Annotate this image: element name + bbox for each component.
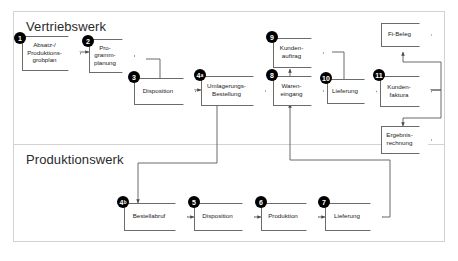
badge-6: 6 xyxy=(255,196,267,208)
badge-number: 8 xyxy=(270,72,274,79)
node-umlagerungs-bestellung[interactable]: Umlagerungs- Bestellung xyxy=(201,76,264,104)
node-label: Disposition xyxy=(197,203,238,229)
badge-number: 10 xyxy=(322,75,330,82)
node-label: Kunden- faktura xyxy=(383,76,415,105)
node-label: Pro- gramm- planung xyxy=(92,39,118,71)
diagram-canvas: Vertriebswerk Produktionswerk xyxy=(0,0,458,261)
badge-number: 11 xyxy=(375,72,382,79)
badge-4b: 4b xyxy=(117,196,129,208)
node-lieferung-vertrieb[interactable]: Lieferung xyxy=(327,79,375,102)
lane-title-vertriebswerk: Vertriebswerk xyxy=(26,19,106,34)
badge-number: 1 xyxy=(18,35,22,42)
badge-10: 10 xyxy=(320,72,332,84)
node-kundenfaktura[interactable]: Kunden- faktura xyxy=(380,76,430,105)
badge-subscript: a xyxy=(201,74,204,79)
node-label: Umlagerungs- Bestellung xyxy=(204,76,249,104)
node-fi-beleg[interactable]: Fi-Beleg xyxy=(381,23,430,45)
node-label: Bestellabruf xyxy=(127,203,171,229)
node-programmplanung[interactable]: Pro- gramm- planung xyxy=(89,39,133,71)
badge-number: 3 xyxy=(132,74,136,81)
badge-5: 5 xyxy=(188,196,200,208)
node-label: Lieferung xyxy=(330,79,360,102)
badge-1: 1 xyxy=(14,32,26,44)
badge-7: 7 xyxy=(318,196,330,208)
badge-4a: 4a xyxy=(194,69,206,81)
badge-number: 9 xyxy=(270,34,274,41)
badge-number: 6 xyxy=(259,199,263,206)
badge-number: 2 xyxy=(86,38,90,45)
node-disposition-produktion[interactable]: Disposition xyxy=(194,203,253,229)
badge-number: 7 xyxy=(322,199,326,206)
node-label: Waren- eingang xyxy=(276,76,307,104)
node-wareneingang[interactable]: Waren- eingang xyxy=(273,76,322,104)
node-label: Produktion xyxy=(264,203,302,229)
badge-11: 11 xyxy=(373,69,385,81)
badge-8: 8 xyxy=(266,69,278,81)
badge-subscript: b xyxy=(124,201,127,206)
badge-9: 9 xyxy=(266,31,278,43)
node-produktion[interactable]: Produktion xyxy=(261,203,317,229)
badge-3: 3 xyxy=(128,71,140,83)
node-label: Ergebnis- rechnung xyxy=(384,126,415,152)
node-ergebnisrechnung[interactable]: Ergebnis- rechnung xyxy=(381,126,430,152)
node-label: Lieferung xyxy=(328,203,366,229)
node-disposition-vertrieb[interactable]: Disposition xyxy=(134,78,194,103)
node-absatz-produktionsgrobplan[interactable]: Absatz-/ Produktions- grobplan xyxy=(22,36,79,69)
node-bestellabruf[interactable]: Bestellabruf xyxy=(124,203,186,229)
node-label: Kunden- auftrag xyxy=(276,38,307,66)
node-lieferung-produktion[interactable]: Lieferung xyxy=(325,203,381,229)
node-kundenauftrag[interactable]: Kunden- auftrag xyxy=(273,38,322,66)
node-label: Disposition xyxy=(137,78,179,103)
node-label: Fi-Beleg xyxy=(384,23,415,45)
badge-number: 5 xyxy=(192,199,196,206)
lane-title-produktionswerk: Produktionswerk xyxy=(26,152,124,167)
node-label: Absatz-/ Produktions- grobplan xyxy=(25,36,64,69)
badge-2: 2 xyxy=(82,35,94,47)
